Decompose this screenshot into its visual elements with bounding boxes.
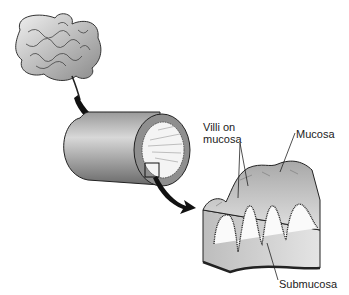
mucosa-label: Mucosa xyxy=(296,128,335,140)
magnified-wall-section xyxy=(203,161,320,272)
villi-label: Villi on mucosa xyxy=(203,121,242,145)
intestine-tube-cross-section xyxy=(64,112,190,186)
villi-label-line2: mucosa xyxy=(203,133,242,145)
villi-label-line1: Villi on xyxy=(203,121,242,133)
small-intestine xyxy=(16,14,101,100)
intestine-diagram xyxy=(0,0,349,295)
submucosa-label: Submucosa xyxy=(279,278,337,290)
